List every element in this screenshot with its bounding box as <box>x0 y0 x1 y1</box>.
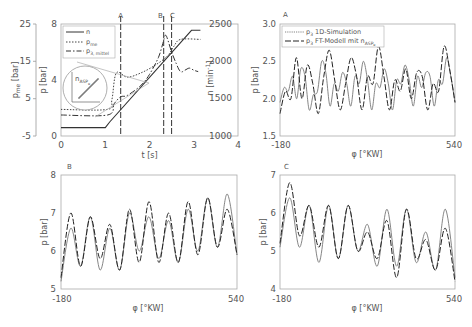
y-tick: 4 <box>271 284 276 294</box>
y-axis-label: p [bar] <box>40 218 49 245</box>
p-tick: 8 <box>51 19 57 29</box>
y-tick: 7 <box>51 208 56 218</box>
x-tick: -180 <box>271 140 290 150</box>
x-tick: -180 <box>272 294 291 304</box>
t-tick: 2 <box>147 140 153 150</box>
x-tick: 540 <box>446 140 462 150</box>
x-axis-label: φ [°KW] <box>352 150 383 159</box>
y-axis-label: p [bar] <box>259 218 268 245</box>
p-axis-label: p [bar] <box>39 66 48 93</box>
panel-label: C <box>284 163 289 171</box>
panel-a-legend: p3 1D-Simulation p3 FT-Modell mit nASPe <box>282 26 384 47</box>
legend-1d-simulation: p3 1D-Simulation <box>306 28 361 37</box>
t-tick: 4 <box>235 140 241 150</box>
y-tick: 5 <box>51 284 56 294</box>
t-tick: 3 <box>191 140 197 150</box>
overview-chart: 25 15 5 -5 pme [bar] 8 4 0 p [bar] 0 1 2… <box>11 12 241 160</box>
plot-frame <box>280 175 455 289</box>
marker-label-b: B <box>158 12 163 20</box>
x-axis-label: φ [°KW] <box>133 304 164 313</box>
overview-legend: n pme p3, mittel <box>63 26 115 58</box>
y-tick: 6 <box>51 246 56 256</box>
y-tick: 5 <box>271 246 276 256</box>
series-ft-modell <box>61 198 237 278</box>
t-tick: 0 <box>58 140 64 150</box>
y-tick: 2.0 <box>262 94 276 104</box>
inset-circle <box>63 66 107 110</box>
y-tick: 7 <box>271 170 276 180</box>
legend-n: n <box>86 28 90 36</box>
y-axis-label: p [bar] <box>251 66 260 93</box>
plot-frame <box>61 175 237 289</box>
n-tick: 2500 <box>209 19 232 29</box>
panel-c-chart: C 7 6 5 4 p [bar] -180 540 φ [°KW] <box>259 163 462 313</box>
series-1d-simulation <box>280 58 455 111</box>
n-tick: 1000 <box>209 131 232 141</box>
p-tick: 0 <box>51 131 57 141</box>
pme-axis-label: pme [bar] <box>11 62 21 99</box>
t-axis-label: t [s] <box>141 151 157 160</box>
series-ft-modell <box>280 183 455 282</box>
t-tick: 1 <box>102 140 108 150</box>
y-tick: 8 <box>51 170 56 180</box>
x-tick: 540 <box>446 294 462 304</box>
p-tick: 4 <box>51 75 57 85</box>
panel-a-chart: A 3.0 2.5 2.0 1.5 p [bar] -180 540 φ [°K… <box>251 11 462 159</box>
x-tick: 540 <box>228 294 244 304</box>
series-1d-simulation <box>280 198 455 278</box>
marker-label-a: A <box>118 12 123 20</box>
y-tick: 3.0 <box>262 19 276 29</box>
pme-tick: 25 <box>20 19 31 29</box>
marker-label-c: C <box>170 12 175 20</box>
panel-label: B <box>67 163 72 171</box>
y-tick: 6 <box>271 208 276 218</box>
y-tick: 2.5 <box>262 56 276 66</box>
panel-b-chart: B 8 7 6 5 p [bar] -180 540 φ [°KW] <box>40 163 244 313</box>
pme-tick: 15 <box>20 56 31 66</box>
pme-tick: -5 <box>22 131 31 141</box>
panel-label: A <box>283 11 288 19</box>
x-axis-label: φ [°KW] <box>352 304 383 313</box>
pme-tick: 5 <box>25 93 31 103</box>
figure: 25 15 5 -5 pme [bar] 8 4 0 p [bar] 0 1 2… <box>0 0 472 327</box>
x-tick: -180 <box>52 294 71 304</box>
